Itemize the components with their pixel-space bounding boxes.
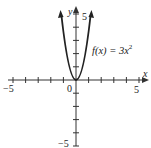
function-label: f(x) = 3x2 <box>92 44 132 56</box>
coordinate-plane <box>0 0 151 148</box>
curve-left-arrow-icon <box>58 10 64 18</box>
function-label-text: f(x) = 3x <box>92 45 129 56</box>
y-min-label: −5 <box>58 139 69 148</box>
origin-label: 0 <box>67 84 72 94</box>
y-axis-label: y <box>68 7 72 17</box>
function-label-exponent: 2 <box>129 43 133 51</box>
x-min-label: −5 <box>3 84 14 94</box>
x-axis-label: x <box>143 69 147 79</box>
y-axis-arrow-icon <box>73 6 79 13</box>
y-max-label: 5 <box>82 12 87 22</box>
x-max-label: 5 <box>134 85 139 95</box>
curve-right-arrow-icon <box>89 10 95 18</box>
